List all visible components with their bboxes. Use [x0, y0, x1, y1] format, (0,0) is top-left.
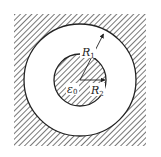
concentric-spheres-diagram: R1 R2 ε0 — [0, 0, 161, 157]
